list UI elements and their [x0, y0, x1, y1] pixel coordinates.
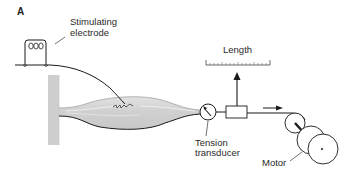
length-slider-box	[226, 106, 247, 118]
electrode-wire	[15, 65, 125, 104]
length-scale	[206, 60, 270, 65]
electrode-label-line1: Stimulating	[70, 17, 117, 27]
fixed-wall	[48, 75, 59, 145]
right-arrow-icon	[276, 106, 283, 111]
muscle	[59, 97, 200, 130]
electrode-label-line2: electrode	[70, 28, 109, 38]
motor-label: Motor	[262, 158, 286, 168]
tension-label-line2: transducer	[195, 148, 240, 158]
tension-transducer	[200, 104, 216, 136]
stimulating-electrode	[23, 40, 48, 67]
up-arrow-icon	[234, 72, 241, 80]
length-label: Length	[223, 45, 252, 55]
diagram-drawing	[0, 0, 350, 179]
muscle-experiment-diagram: A	[0, 0, 350, 179]
